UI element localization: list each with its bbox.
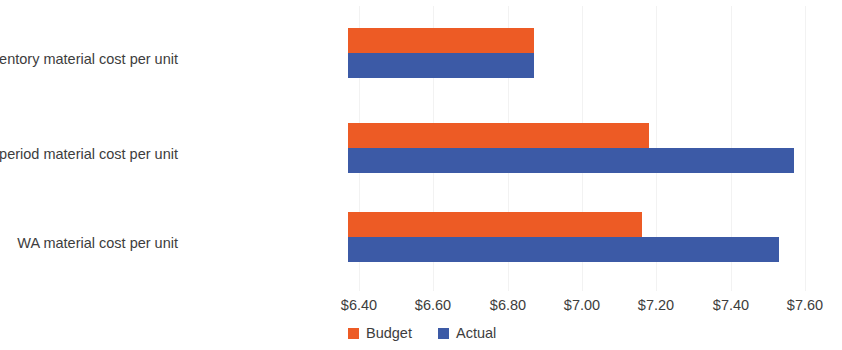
legend-item-budget[interactable]: Budget [348, 325, 412, 341]
legend-label: Budget [366, 325, 412, 341]
bar-actual[interactable] [348, 148, 794, 173]
legend-label: Actual [456, 325, 496, 341]
x-tick-label: $6.80 [490, 296, 526, 314]
x-tick-label: $7.00 [564, 296, 600, 314]
gridline [805, 6, 806, 291]
bar-budget[interactable] [348, 212, 642, 237]
category-label-fifo-beginning-inventory: FIFO beg. inventory material cost per un… [0, 51, 178, 68]
x-tick-label: $6.40 [341, 296, 377, 314]
legend-item-actual[interactable]: Actual [438, 325, 496, 341]
x-axis: $6.40 $6.60 $6.80 $7.00 $7.20 $7.40 $7.6… [348, 296, 805, 316]
bar-budget[interactable] [348, 123, 649, 148]
plot-area [348, 6, 805, 291]
bar-actual[interactable] [348, 53, 534, 78]
square-swatch-icon [348, 328, 359, 339]
x-tick-label: $7.20 [638, 296, 674, 314]
bar-chart: FIFO beg. inventory material cost per un… [0, 0, 842, 350]
square-swatch-icon [438, 328, 449, 339]
chart-legend: Budget Actual [348, 325, 496, 341]
x-tick-label: $7.40 [713, 296, 749, 314]
category-label-fifo-current-period: FIFO current period material cost per un… [0, 146, 178, 163]
bar-budget[interactable] [348, 28, 534, 53]
x-tick-label: $7.60 [787, 296, 823, 314]
x-tick-label: $6.60 [415, 296, 451, 314]
bar-actual[interactable] [348, 237, 779, 262]
category-label-wa-material-cost: WA material cost per unit [0, 235, 178, 252]
